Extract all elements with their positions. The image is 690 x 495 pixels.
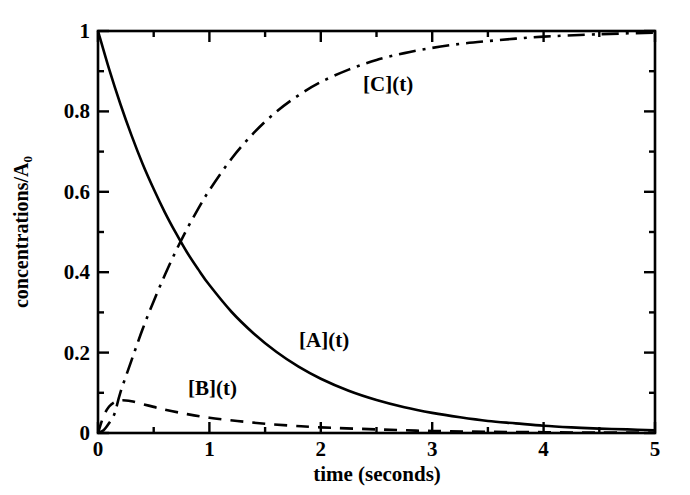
- y-axis-title-subscript: 0: [20, 156, 35, 163]
- y-tick-label: 0.4: [36, 260, 90, 285]
- x-tick-label: 3: [427, 437, 438, 462]
- x-tick-label: 5: [650, 437, 661, 462]
- x-tick-label: 2: [316, 437, 327, 462]
- x-tick-label: 0: [93, 437, 104, 462]
- y-tick-label: 0: [36, 421, 90, 446]
- series-label-b: [B](t): [188, 376, 237, 401]
- y-axis-title: concentrations/A0: [10, 156, 33, 308]
- y-axis-title-main: concentrations/A: [10, 162, 32, 308]
- x-tick-label: 4: [538, 437, 549, 462]
- plot-area-svg: [0, 0, 690, 495]
- y-tick-label: 0.8: [36, 99, 90, 124]
- x-tick-label: 1: [204, 437, 215, 462]
- kinetics-chart-figure: 012345 00.20.40.60.81 time (seconds) con…: [0, 0, 690, 495]
- y-tick-label: 1: [36, 19, 90, 44]
- x-axis-title: time (seconds): [313, 462, 441, 487]
- series-label-a: [A](t): [299, 328, 349, 353]
- y-tick-label: 0.2: [36, 340, 90, 365]
- series-label-c: [C](t): [363, 72, 413, 97]
- y-tick-label: 0.6: [36, 179, 90, 204]
